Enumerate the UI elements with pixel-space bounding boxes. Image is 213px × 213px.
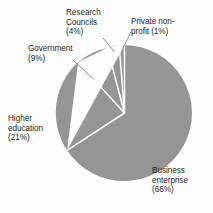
pie-slice-business-enterprise xyxy=(67,45,192,181)
pie-chart: Research Councils (4%) Private non- prof… xyxy=(0,0,213,213)
pie-label-research-councils: Research Councils (4%) xyxy=(66,8,101,37)
pie-label-government: Government (9%) xyxy=(28,44,73,63)
leader-line-research-councils xyxy=(103,38,115,52)
pie-label-higher-education: Higher education (21%) xyxy=(8,114,43,143)
pie-slice-government xyxy=(78,48,107,63)
pie-label-private-nonprofit: Private non- profit (1%) xyxy=(131,17,175,36)
pie-label-business-enterprise: Business enterprise (66%) xyxy=(152,166,188,195)
